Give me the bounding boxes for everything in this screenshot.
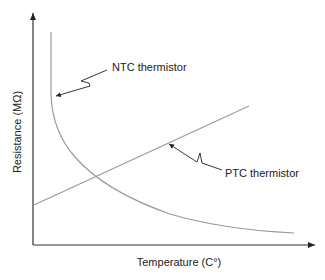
ptc-line (34, 106, 249, 205)
ntc-leader-arrow (56, 70, 107, 96)
ptc-leader-arrow (169, 144, 222, 170)
ntc-label: NTC thermistor (112, 61, 187, 73)
x-axis-label: Temperature (C°) (137, 256, 221, 268)
ptc-label: PTC thermistor (225, 167, 299, 179)
y-axis-label: Resistance (MΩ) (11, 91, 23, 173)
thermistor-diagram: NTC thermistor PTC thermistor Temperatur… (0, 0, 325, 280)
